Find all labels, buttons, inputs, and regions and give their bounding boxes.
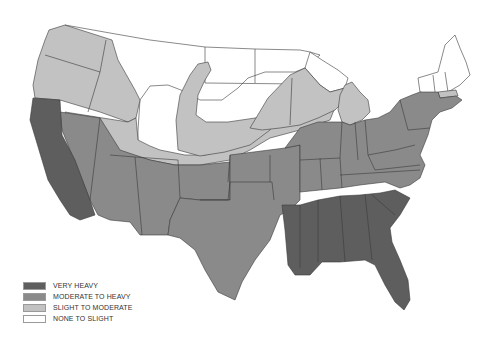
legend-item-none-to-slight: NONE TO SLIGHT — [23, 313, 132, 324]
legend-item-slight-to-moderate: SLIGHT TO MODERATE — [23, 302, 132, 313]
legend-label: VERY HEAVY — [53, 282, 98, 289]
legend-swatch-slight-to-moderate — [23, 304, 46, 312]
legend-swatch-none-to-slight — [23, 315, 46, 323]
legend-item-moderate-to-heavy: MODERATE TO HEAVY — [23, 291, 132, 302]
legend-label: NONE TO SLIGHT — [53, 315, 113, 322]
map-legend: VERY HEAVY MODERATE TO HEAVY SLIGHT TO M… — [23, 280, 132, 324]
legend-label: SLIGHT TO MODERATE — [53, 304, 132, 311]
legend-label: MODERATE TO HEAVY — [53, 293, 130, 300]
legend-item-very-heavy: VERY HEAVY — [23, 280, 132, 291]
legend-swatch-very-heavy — [23, 282, 46, 290]
legend-swatch-moderate-to-heavy — [23, 293, 46, 301]
